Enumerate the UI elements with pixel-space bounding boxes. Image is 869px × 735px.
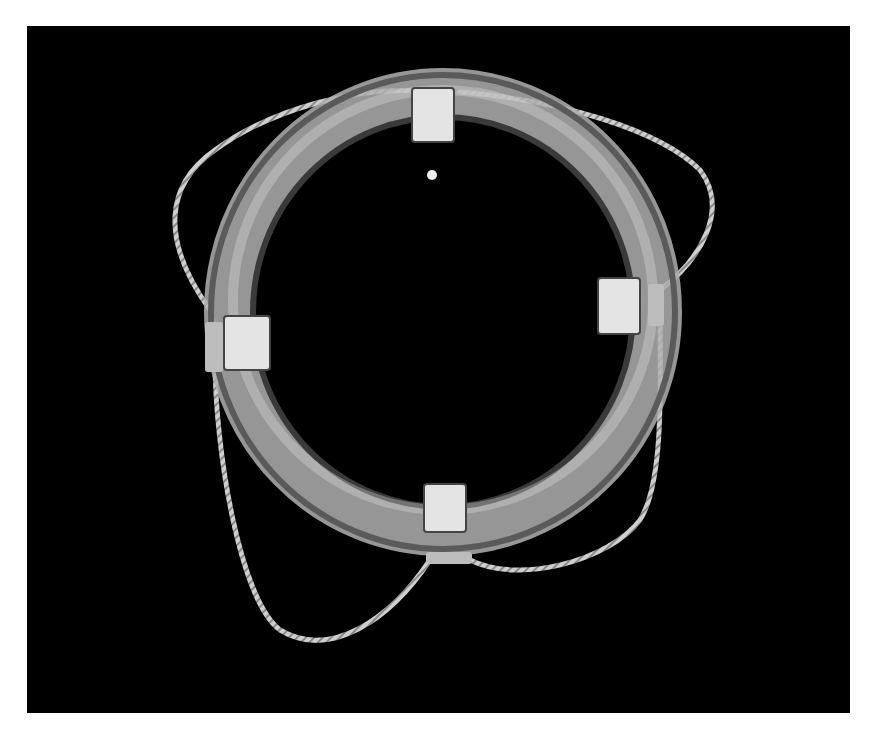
ring-hole xyxy=(427,170,437,180)
life-ring-illustration xyxy=(0,0,869,735)
